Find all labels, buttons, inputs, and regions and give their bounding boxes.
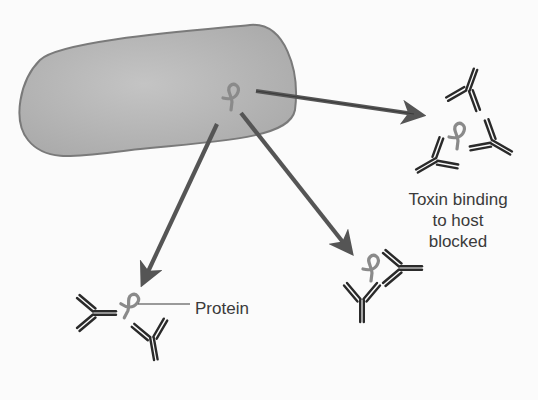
protein-label: Protein: [195, 298, 249, 319]
toxin-icon: [449, 123, 464, 149]
bound-complex: [344, 250, 422, 322]
label-line: Toxin binding: [388, 189, 528, 210]
label-line: blocked: [388, 231, 528, 252]
antibody-icon: [468, 118, 520, 169]
agglutinated-complex: [77, 291, 190, 363]
toxin-icon: [363, 255, 378, 281]
antibody-icon: [445, 63, 492, 112]
diagram-canvas: Toxin binding to host blocked Protein: [0, 0, 538, 400]
antibody-icon: [131, 318, 173, 363]
neutralized-complex: [408, 63, 520, 186]
label-line: to host: [388, 210, 528, 231]
arrow-to-bound: [241, 113, 346, 246]
bacterium-cell: [19, 25, 295, 156]
antibody-icon: [344, 283, 380, 322]
antibody-icon: [408, 136, 460, 187]
toxin-blocked-label: Toxin binding to host blocked: [388, 189, 528, 252]
antibody-icon: [383, 250, 422, 286]
antibody-icon: [77, 295, 116, 331]
protein-icon: [117, 291, 140, 320]
